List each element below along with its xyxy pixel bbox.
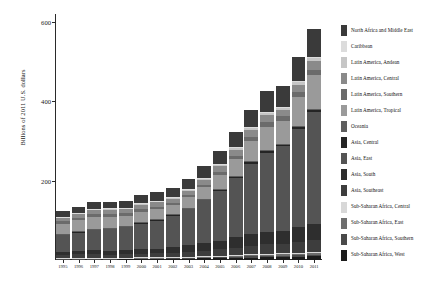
legend-label: Asia, Southeast [351, 187, 383, 193]
bar-segment [307, 57, 321, 58]
bar-segment [244, 161, 258, 162]
bar-segment [244, 128, 258, 130]
bar-segment [197, 200, 211, 243]
legend-item[interactable]: Sub-Saharan Africa, East [341, 217, 434, 233]
bar-segment [150, 192, 164, 200]
bar-segment [166, 247, 180, 252]
legend-item[interactable]: North Africa and Middle East [341, 24, 434, 40]
bar-segment [103, 209, 117, 210]
bar-segment [150, 207, 164, 209]
bar-segment [197, 178, 211, 179]
bar-segment [292, 92, 306, 97]
legend-label: Caribbean [351, 43, 372, 49]
legend-label: Asia, Central [351, 139, 379, 145]
bar-segment [213, 256, 227, 257]
bar-segment [292, 81, 306, 82]
bar-segment [244, 110, 258, 128]
bar-segment [182, 195, 196, 197]
bar-segment [260, 127, 274, 151]
legend-label: North Africa and Middle East [351, 27, 413, 33]
legend-item[interactable]: Asia, East [341, 152, 434, 168]
bar-segment [292, 227, 306, 242]
bar-segment [119, 209, 133, 213]
bar-segment [244, 127, 258, 128]
x-tick-label: 2003 [184, 264, 193, 269]
legend-item[interactable]: Asia, Southeast [341, 184, 434, 200]
legend-item[interactable]: Latin America, Central [341, 72, 434, 88]
bar-segment [197, 257, 211, 258]
bar-segment [213, 257, 227, 258]
bar-segment [56, 224, 70, 234]
x-tick-label: 2000 [137, 264, 146, 269]
legend-item[interactable]: Latin America, Southern [341, 88, 434, 104]
legend-item[interactable]: Sub-Saharan Africa, Southern [341, 233, 434, 249]
bar-segment [119, 208, 133, 209]
bar-segment [213, 241, 227, 250]
bar-2004 [197, 166, 211, 260]
bar-segment [182, 245, 196, 251]
bar-segment [213, 164, 227, 165]
bar-segment [292, 57, 306, 81]
x-tick-label: 2005 [215, 264, 224, 269]
legend-item[interactable]: Caribbean [341, 40, 434, 56]
legend-item[interactable]: Sub-Saharan Africa, West [341, 249, 434, 265]
bar-segment [72, 220, 86, 231]
legend-swatch [341, 73, 347, 84]
legend-label: Asia, South [351, 171, 375, 177]
legend-swatch [341, 137, 347, 148]
stacked-bar-chart-figure: Billions of 2011 U.S. dollars 200400600 … [0, 0, 434, 290]
bar-2002 [166, 188, 180, 260]
bar-segment [292, 82, 306, 85]
bar-segment [197, 199, 211, 200]
bar-2010 [292, 57, 306, 260]
bar-segment [307, 75, 321, 108]
bar-segment [134, 254, 148, 258]
bar-segment [244, 137, 258, 141]
bar-segment [197, 258, 211, 260]
bar-segment [244, 234, 258, 246]
bar-segment [229, 237, 243, 247]
x-tick-mark [267, 260, 268, 263]
bar-segment [56, 217, 70, 218]
legend-item[interactable]: Asia, Central [341, 136, 434, 152]
bar-segment [213, 191, 227, 241]
bar-segment [292, 129, 306, 227]
x-tick-label: 1995 [58, 264, 67, 269]
bar-segment [260, 113, 274, 115]
bar-segment [292, 253, 306, 254]
bar-segment [307, 252, 321, 253]
bar-segment [260, 153, 274, 232]
bar-segment [213, 151, 227, 164]
legend-item[interactable]: Asia, South [341, 168, 434, 184]
x-tick-mark [283, 260, 284, 263]
bar-2011 [307, 29, 321, 260]
bar-segment [119, 259, 133, 260]
x-tick-label: 2010 [294, 264, 303, 269]
legend-swatch [341, 218, 347, 229]
bar-segment [197, 185, 211, 187]
legend-item[interactable]: Latin America, Andean [341, 56, 434, 72]
bar-segment [260, 91, 274, 112]
legend-label: Asia, East [351, 155, 372, 161]
bar-segment [197, 243, 211, 250]
bar-segment [260, 244, 274, 253]
bar-segment [56, 235, 70, 252]
legend-label: Sub-Saharan Africa, Southern [351, 235, 413, 241]
legend-item[interactable]: Oceania [341, 120, 434, 136]
bar-segment [166, 258, 180, 259]
bar-segment [276, 244, 290, 253]
bar-segment [87, 259, 101, 260]
bar-1998 [103, 202, 117, 260]
bar-segment [166, 216, 180, 248]
legend-item[interactable]: Latin America, Tropical [341, 104, 434, 120]
bar-segment [87, 229, 101, 230]
bar-segment [134, 223, 148, 249]
bar-segment [166, 205, 180, 215]
bar-segment [307, 255, 321, 257]
bar-segment [119, 216, 133, 226]
bar-segment [292, 85, 306, 93]
bar-segment [276, 253, 290, 254]
legend-item[interactable]: Sub-Saharan Africa, Central [341, 201, 434, 217]
bar-segment [72, 259, 86, 260]
x-tick-mark [79, 260, 80, 263]
